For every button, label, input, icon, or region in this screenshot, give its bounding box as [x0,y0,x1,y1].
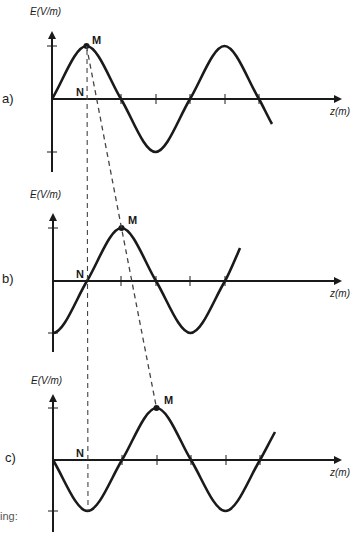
point-n-label: N [76,86,84,98]
y-axis-label: E(V/m) [30,189,61,200]
point-m-marker [154,405,160,411]
y-axis-label: E(V/m) [31,375,62,386]
point-m-label: M [92,34,101,46]
panel-label: a) [2,91,14,106]
wave-diagram: E(V/m) z(m) M N a) E(V/m) z(m) M N b) [0,0,355,544]
panel-label: b) [2,271,14,286]
z-axis-label: z(m) [329,106,350,117]
panel-a: E(V/m) z(m) M N a) [2,6,350,172]
panel-b: E(V/m) z(m) M N b) [2,189,350,352]
z-axis-label: z(m) [329,467,350,478]
point-n-label: N [76,447,84,459]
y-axis-label: E(V/m) [30,6,61,17]
panel-label: c) [5,450,16,465]
z-axis-label: z(m) [329,288,350,299]
point-m-label: M [164,394,173,406]
panel-c: E(V/m) z(m) M N c) [5,375,350,532]
point-n-label: N [76,268,84,280]
point-m-label: M [128,214,137,226]
footer-text-fragment: ing: [0,510,18,522]
